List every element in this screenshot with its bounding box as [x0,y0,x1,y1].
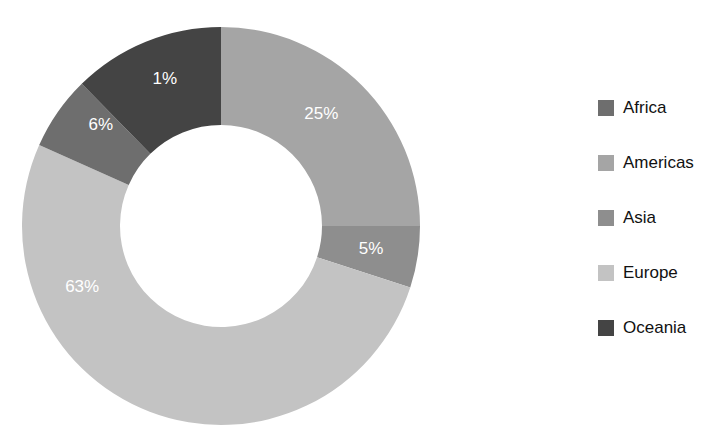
slice-label-oceania: 1% [152,69,177,88]
donut-plot-area: 25%5%63%6%1% [0,0,470,436]
legend-label-americas: Americas [623,153,694,173]
legend-swatch-asia [598,210,614,226]
legend-swatch-europe [598,265,614,281]
legend-item-oceania[interactable]: Oceania [598,316,728,340]
slice-label-asia: 5% [359,239,384,258]
donut-slice-americas[interactable] [221,27,420,226]
legend-label-asia: Asia [623,208,656,228]
legend-swatch-africa [598,100,614,116]
legend-item-americas[interactable]: Americas [598,151,728,175]
legend-item-africa[interactable]: Africa [598,96,728,120]
donut-chart: 25%5%63%6%1% Africa Americas Asia Europe… [0,0,728,436]
donut-svg: 25%5%63%6%1% [0,0,470,436]
legend-swatch-americas [598,155,614,171]
legend-item-asia[interactable]: Asia [598,206,728,230]
legend-swatch-oceania [598,320,614,336]
legend-label-oceania: Oceania [623,318,686,338]
legend-item-europe[interactable]: Europe [598,261,728,285]
slice-label-americas: 25% [304,104,338,123]
legend-label-europe: Europe [623,263,678,283]
legend-label-africa: Africa [623,98,666,118]
slice-label-africa: 6% [88,115,113,134]
slice-label-europe: 63% [65,277,99,296]
chart-legend: Africa Americas Asia Europe Oceania [598,96,728,340]
